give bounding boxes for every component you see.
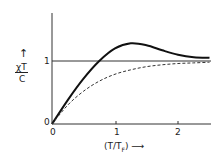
y-axis-arrow: ↑ xyxy=(19,48,28,59)
x-tick-label-1: 1 xyxy=(114,128,120,137)
x-tick-label-2: 2 xyxy=(175,128,181,137)
x-axis-label-text: (T/T xyxy=(104,141,122,151)
y-axis-label-denominator: C xyxy=(19,75,25,84)
x-axis-arrow: ⟶ xyxy=(131,141,144,151)
x-axis-label: (T/TF) ⟶ xyxy=(104,142,144,153)
x-axis-label-close: ) xyxy=(125,141,129,151)
solid-curve xyxy=(52,43,210,124)
x-tick-label-0: 0 xyxy=(50,128,56,137)
plot-area xyxy=(0,0,221,159)
y-axis-label-numerator: χT xyxy=(15,63,28,73)
dashed-curve xyxy=(52,62,210,124)
y-tick-label-0: 0 xyxy=(44,118,50,127)
y-tick-label-1: 1 xyxy=(44,57,50,66)
